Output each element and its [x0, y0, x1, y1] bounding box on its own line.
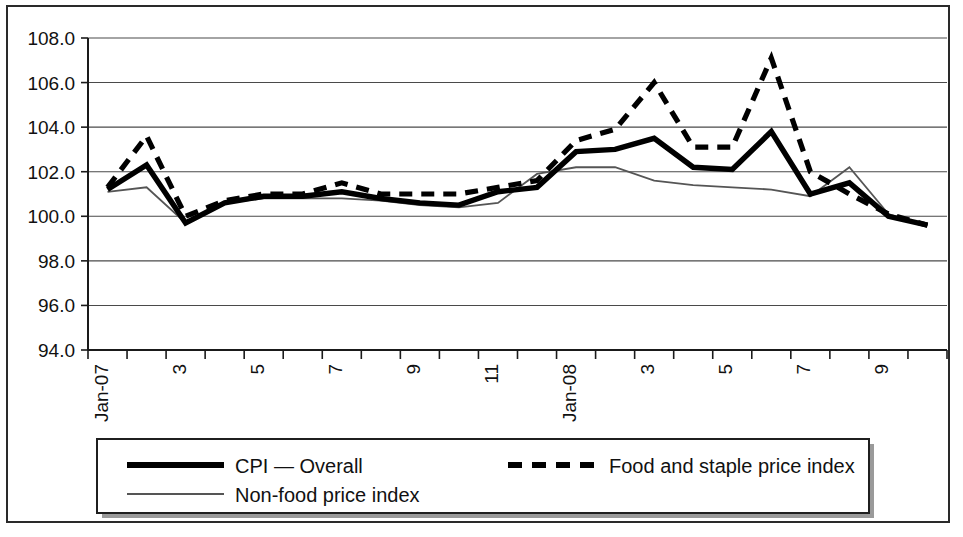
y-tick-label: 96.0 [38, 295, 75, 316]
y-tick-label: 100.0 [27, 206, 75, 227]
x-tick-label: 7 [793, 364, 814, 375]
x-tick-label: 5 [247, 364, 268, 375]
x-tick-label: 9 [403, 364, 424, 375]
x-tick-label: 3 [637, 364, 658, 375]
x-axis-tick-labels: Jan-07357911Jan-083579 [91, 364, 893, 422]
x-tick-label: 3 [169, 364, 190, 375]
chart-page: 108.0106.0104.0102.0100.098.096.094.0 Ja… [0, 0, 963, 537]
series-line-cpi-overall [108, 132, 928, 226]
x-tick-label: Jan-08 [559, 364, 580, 422]
x-tick-label: 5 [715, 364, 736, 375]
y-tick-label: 106.0 [27, 73, 75, 94]
line-chart: 108.0106.0104.0102.0100.098.096.094.0 Ja… [0, 0, 963, 537]
legend-label-cpi-overall: CPI — Overall [235, 455, 363, 477]
y-tick-label: 104.0 [27, 117, 75, 138]
x-axis-tick-marks [88, 350, 947, 359]
y-axis-tick-marks [81, 38, 88, 350]
x-tick-label: 11 [481, 364, 502, 384]
legend-label-non-food-price-index: Non-food price index [235, 484, 420, 506]
x-tick-label: Jan-07 [91, 364, 112, 422]
x-tick-label: 7 [325, 364, 346, 375]
legend-label-food-and-staple-price-index: Food and staple price index [609, 455, 855, 477]
y-axis-tick-labels: 108.0106.0104.0102.0100.098.096.094.0 [27, 28, 75, 361]
chart-svg: 108.0106.0104.0102.0100.098.096.094.0 Ja… [0, 0, 963, 537]
y-tick-label: 98.0 [38, 251, 75, 272]
x-tick-label: 9 [871, 364, 892, 375]
y-tick-label: 94.0 [38, 340, 75, 361]
y-tick-label: 108.0 [27, 28, 75, 49]
y-tick-label: 102.0 [27, 162, 75, 183]
